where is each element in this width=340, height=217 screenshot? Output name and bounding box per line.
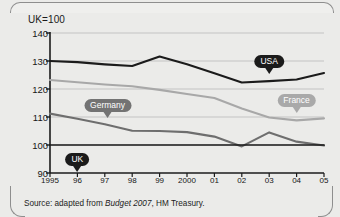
callout-label-uk: UK — [65, 153, 89, 166]
source-caption: Source: adapted from Budget 2007, HM Tre… — [24, 199, 205, 208]
x-tick-label: 99 — [155, 176, 164, 185]
x-tick-label: 05 — [320, 176, 329, 185]
y-tick-label: 110 — [22, 112, 48, 123]
caption-prefix: Source: adapted from — [24, 199, 105, 208]
caption-title: Budget 2007 — [105, 199, 151, 208]
y-tick-label: 100 — [22, 140, 48, 151]
callout-tail-icon — [265, 68, 273, 74]
x-tick-label: 2000 — [178, 176, 196, 185]
caption-suffix: , HM Treasury. — [151, 199, 204, 208]
x-tick-label: 03 — [265, 176, 274, 185]
callout-label-germany: Germany — [84, 99, 131, 112]
callout-label-usa: USA — [254, 55, 283, 68]
callout-tail-icon — [73, 166, 81, 172]
x-tick-label: 01 — [210, 176, 219, 185]
x-tick-label: 04 — [292, 176, 301, 185]
x-tick-label: 02 — [237, 176, 246, 185]
y-tick-label: 120 — [22, 84, 48, 95]
x-tick-label: 98 — [128, 176, 137, 185]
callout-tail-icon — [104, 112, 112, 118]
x-tick-label: 96 — [73, 176, 82, 185]
x-tick-label: 1995 — [41, 176, 59, 185]
y-tick-label: 130 — [22, 56, 48, 67]
callout-tail-icon — [293, 107, 301, 113]
y-tick-label: 140 — [22, 28, 48, 39]
figure-root: UK=100 14013012011010090 199596979899200… — [0, 0, 340, 217]
x-tick-label: 97 — [100, 176, 109, 185]
chart-area: UK=100 14013012011010090 199596979899200… — [0, 0, 340, 217]
callout-label-france: France — [277, 94, 315, 107]
